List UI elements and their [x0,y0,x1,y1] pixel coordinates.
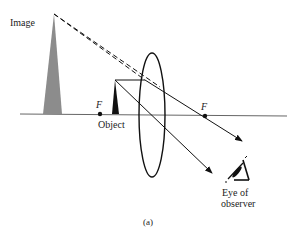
image-label: Image [10,17,36,28]
object-arrow [112,80,119,114]
object-label: Object [98,119,125,130]
focal-left-label: F [95,99,103,110]
focal-point-left [98,112,102,116]
central-ray [115,80,212,173]
focal-right-label: F [200,101,208,112]
dashed-ray-extension-lower [54,14,145,80]
eye-label-line2: observer [221,198,256,209]
eye-label-line1: Eye of [222,187,249,198]
eye-icon [226,156,249,183]
focal-point-right [203,114,207,118]
magnifier-ray-diagram: Image Object F F Eye of observer (a) [0,0,298,229]
optical-axis [20,114,287,116]
parallel-ray-refracted [145,80,242,141]
virtual-image-arrow [43,14,62,114]
figure-caption: (a) [143,217,153,227]
